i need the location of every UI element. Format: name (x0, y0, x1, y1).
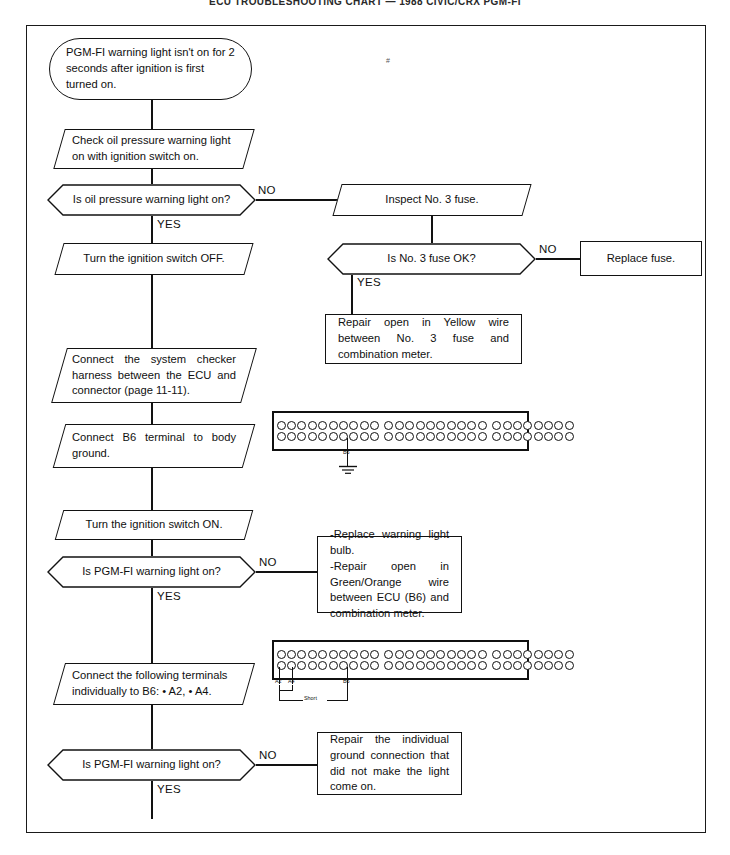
connector-block-c (490, 413, 577, 449)
decision-oil-pressure-light-label: Is oil pressure warning light on? (47, 184, 256, 216)
pin (349, 432, 358, 441)
inspect-no3-fuse: Inspect No. 3 fuse. (332, 184, 531, 216)
pin-row (276, 650, 380, 660)
pin (534, 650, 543, 659)
connector-decision1-yes (151, 216, 153, 243)
pin (503, 661, 512, 670)
short-bracket-bar-left (279, 700, 303, 701)
connector-decision4-no (256, 764, 317, 766)
pin (360, 661, 369, 670)
pin (318, 661, 327, 670)
decision-pgmfi-2-yes-label: YES (157, 783, 181, 795)
connect-terminals-individually: Connect the following terminals individu… (53, 663, 255, 705)
decision-pgmfi-light-1-label: Is PGM-FI warning light on? (47, 556, 256, 588)
decision-pgmfi-2-no-label: NO (259, 749, 277, 761)
pin (467, 432, 476, 441)
connector-b6ground-to-ignition-on (151, 468, 153, 510)
pin (467, 650, 476, 659)
start-terminator: PGM-FI warning light isn't on for 2 seco… (49, 38, 252, 100)
pin (467, 421, 476, 430)
pin (395, 661, 404, 670)
pin-row (384, 660, 488, 670)
pin (339, 421, 348, 430)
connector-block-b (382, 413, 490, 449)
pin (416, 661, 425, 670)
connect-system-checker: Connect the system checker harness betwe… (51, 348, 257, 403)
pin (329, 421, 338, 430)
pin (395, 650, 404, 659)
pin (447, 650, 456, 659)
pin (384, 650, 393, 659)
pin (513, 432, 522, 441)
pin (544, 650, 553, 659)
pin (544, 421, 553, 430)
pin (534, 661, 543, 670)
connector-block-b (382, 642, 490, 678)
decision-no3-fuse-ok: Is No. 3 fuse OK? (327, 243, 536, 275)
result-replace-fuse: Replace fuse. (580, 241, 702, 276)
pin (478, 421, 487, 430)
result-repair-yellow-wire-label: Repair open in Yellow wire between No. 3… (326, 313, 521, 365)
pin (457, 661, 466, 670)
connector-decision1-no (256, 199, 345, 201)
page-title: ECU TROUBLESHOOTING CHART — 1988 CIVIC/C… (0, 0, 730, 6)
pin (308, 650, 317, 659)
connector-decision3-yes (151, 588, 153, 663)
pin (492, 650, 501, 659)
pin (436, 650, 445, 659)
pin (565, 661, 574, 670)
pin (544, 432, 553, 441)
pin (436, 661, 445, 670)
pin (370, 650, 379, 659)
pin (329, 661, 338, 670)
pin (370, 432, 379, 441)
result-replace-bulb-repair-green-orange: -Replace warning light bulb. -Repair ope… (317, 536, 462, 613)
pin (349, 421, 358, 430)
connector-ignition-off-to-checker (151, 275, 153, 348)
decision-pgmfi-1-no-label: NO (259, 556, 277, 568)
pin (277, 421, 286, 430)
connector-pin-label-b6-2: B6 (343, 678, 350, 684)
decision-oil-pressure-no-label: NO (258, 184, 276, 196)
pin (287, 650, 296, 659)
connector-start-to-check-oil (151, 100, 153, 129)
decision-pgmfi-light-2: Is PGM-FI warning light on? (47, 749, 256, 781)
pin (384, 661, 393, 670)
pin (405, 661, 414, 670)
decision-no3-fuse-no-label: NO (539, 243, 557, 255)
check-oil-pressure-light-label: Check oil pressure warning light on with… (60, 133, 248, 165)
pin (492, 661, 501, 670)
decision-no3-fuse-ok-label: Is No. 3 fuse OK? (327, 243, 536, 275)
check-oil-pressure-light: Check oil pressure warning light on with… (53, 129, 254, 169)
pin (523, 650, 532, 659)
decision-pgmfi-1-yes-label: YES (157, 590, 181, 602)
pin (308, 432, 317, 441)
pin (318, 650, 327, 659)
pin (467, 661, 476, 670)
pin (426, 432, 435, 441)
connect-terminals-individually-label: Connect the following terminals individu… (60, 668, 248, 700)
pin (478, 661, 487, 670)
result-replace-bulb-repair-green-orange-label: -Replace warning light bulb. -Repair ope… (318, 525, 461, 624)
pin (405, 650, 414, 659)
pin (318, 421, 327, 430)
connector-pin-label-a4: A4 (288, 678, 295, 684)
pin (554, 661, 563, 670)
pin (447, 661, 456, 670)
turn-ignition-on-label: Turn the ignition switch ON. (60, 517, 248, 533)
decision-pgmfi-light-2-label: Is PGM-FI warning light on? (47, 749, 256, 781)
pin (277, 650, 286, 659)
pin (329, 650, 338, 659)
pin (436, 432, 445, 441)
pin (416, 650, 425, 659)
pin (565, 432, 574, 441)
connector-pin-label-a2: A2 (275, 678, 282, 684)
pin-row (384, 431, 488, 441)
pin-row (276, 421, 380, 431)
pin (492, 421, 501, 430)
connector-diagram-a2-a4-short (272, 640, 529, 680)
turn-ignition-on: Turn the ignition switch ON. (55, 510, 254, 540)
pin-row (492, 660, 575, 670)
decision-oil-pressure-light: Is oil pressure warning light on? (47, 184, 256, 216)
pin-row (276, 431, 380, 441)
